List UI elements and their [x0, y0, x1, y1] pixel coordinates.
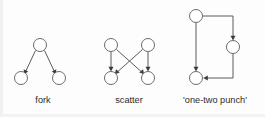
scatter-node-top-left[interactable] [105, 39, 118, 52]
scatter-node-bottom-right[interactable] [142, 72, 155, 85]
scatter-node-bottom-left[interactable] [105, 72, 118, 85]
diagram-fork: fork [15, 39, 66, 106]
caption-one-two-punch: 'one-two punch' [183, 95, 247, 105]
diagram-scatter: scatter [105, 39, 155, 106]
fork-node-bottom-left[interactable] [15, 72, 28, 85]
fork-node-bottom-right[interactable] [53, 72, 66, 85]
punch-node-mid-right[interactable] [227, 41, 240, 54]
punch-edge-top-to-mid-right-arrowhead [231, 36, 236, 41]
punch-edge-top-to-bottom-left-arrowhead [194, 67, 199, 72]
fork-node-top[interactable] [34, 39, 47, 52]
caption-fork: fork [35, 95, 51, 105]
punch-node-top-left[interactable] [190, 10, 203, 23]
workflow-pattern-figure: forkscatter'one-two punch' [0, 0, 265, 117]
figure-canvas: forkscatter'one-two punch' [0, 0, 265, 117]
punch-edge-mid-right-to-bottom [206, 54, 234, 79]
scatter-node-top-right[interactable] [142, 39, 155, 52]
scatter-edge-top-right-to-bottom-right-arrowhead [146, 67, 151, 72]
diagram-layer: forkscatter'one-two punch' [15, 10, 248, 106]
fork-edge-top-to-bottom-right [45, 51, 55, 73]
fork-edge-top-to-bottom-left [25, 51, 35, 73]
scatter-edge-top-left-to-bottom-left-arrowhead [109, 67, 114, 72]
caption-scatter: scatter [115, 95, 143, 105]
diagram-one-two-punch: 'one-two punch' [183, 10, 247, 106]
punch-node-bottom-left[interactable] [190, 72, 203, 85]
punch-edge-top-to-mid-right [203, 16, 234, 38]
punch-edge-mid-right-to-bottom-arrowhead [203, 76, 208, 81]
